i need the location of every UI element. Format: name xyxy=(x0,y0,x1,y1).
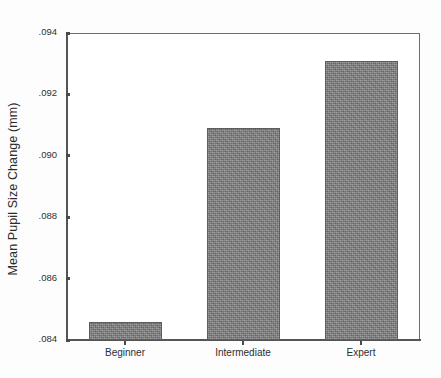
y-axis-tick-label: .092 xyxy=(39,87,58,98)
y-axis-tick-mark xyxy=(66,93,70,96)
y-axis-tick-mark xyxy=(66,339,70,342)
bar-beginner xyxy=(89,322,162,340)
x-axis-tick-mark xyxy=(360,341,362,345)
y-axis-tick-mark xyxy=(66,216,70,219)
y-axis-tick-label: .090 xyxy=(39,149,58,160)
bar-expert xyxy=(325,61,398,340)
bar-intermediate xyxy=(207,128,280,340)
y-axis-tick-label: .086 xyxy=(39,272,58,283)
y-axis-tick-mark xyxy=(66,277,70,280)
y-axis-tick-mark xyxy=(66,32,70,35)
y-axis-tick-label: .094 xyxy=(39,26,58,37)
y-axis-tick-label: .084 xyxy=(39,333,58,344)
y-axis-tick-mark xyxy=(66,154,70,157)
x-axis-label-intermediate: Intermediate xyxy=(215,347,271,358)
y-axis-tick-label: .088 xyxy=(39,210,58,221)
x-axis-tick-mark xyxy=(242,341,244,345)
x-axis-label-beginner: Beginner xyxy=(105,347,145,358)
bar-chart-figure: Mean Pupil Size Change (mm) .084.086.088… xyxy=(0,0,441,378)
x-axis-tick-mark xyxy=(124,341,126,345)
y-axis-title: Mean Pupil Size Change (mm) xyxy=(0,0,26,378)
x-axis-label-expert: Expert xyxy=(347,347,376,358)
